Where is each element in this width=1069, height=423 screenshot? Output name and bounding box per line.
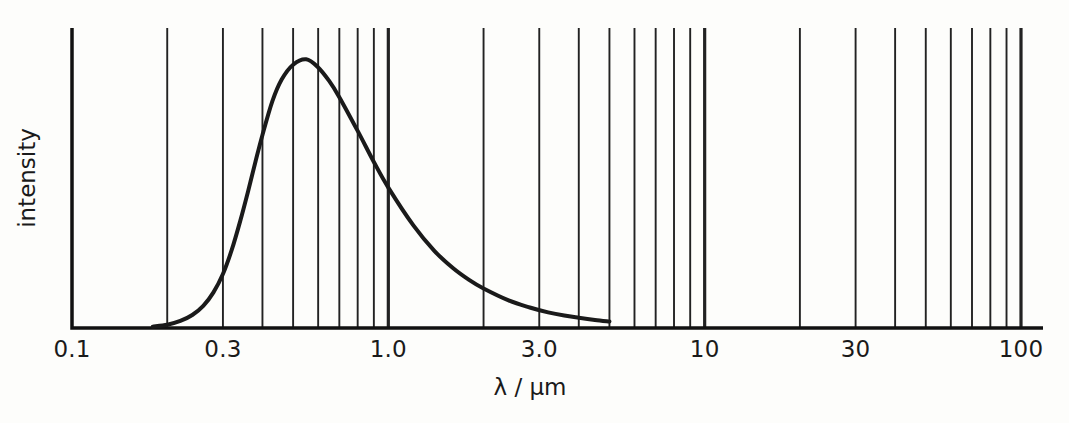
- x-tick-label: 0.3: [204, 336, 241, 362]
- data-series: [153, 59, 610, 326]
- x-tick-label: 1.0: [370, 336, 407, 362]
- x-tick-label: 0.1: [53, 336, 90, 362]
- series-line: [153, 59, 610, 326]
- gridlines-minor: [167, 28, 1006, 328]
- x-axis-title: λ / µm: [493, 374, 566, 400]
- x-tick-label: 100: [999, 336, 1044, 362]
- x-tick-label: 10: [690, 336, 720, 362]
- x-tick-label: 3.0: [521, 336, 558, 362]
- y-axis-title: intensity: [14, 128, 40, 228]
- chart-figure: 0.10.31.03.01030100 λ / µm intensity: [0, 0, 1069, 423]
- x-tick-label: 30: [841, 336, 871, 362]
